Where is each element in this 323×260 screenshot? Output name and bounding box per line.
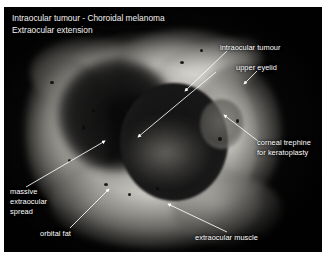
figure-title-line1: Intraocular tumour - Choroidal melanoma: [12, 13, 165, 25]
arrow-corneal-trephine: [224, 115, 258, 141]
figure-title-line2: Extraocular extension: [12, 25, 93, 37]
arrow-extraocular-muscle: [168, 204, 227, 232]
label-massive-spread-line2: extraocular: [10, 197, 47, 207]
label-intraocular-tumour: intraocular tumour: [220, 43, 280, 53]
label-corneal-trephine-line1: corneal trephine: [257, 138, 311, 148]
label-massive-spread-line1: massive: [10, 187, 37, 197]
annotation-layer: Intraocular tumour - Choroidal melanoma …: [4, 7, 322, 252]
arrow-globe-tumour: [138, 72, 216, 137]
arrow-massive-spread: [26, 141, 105, 187]
arrow-orbital-fat: [70, 189, 109, 228]
pathology-figure-frame: Intraocular tumour - Choroidal melanoma …: [4, 7, 322, 252]
label-corneal-trephine-line2: for keratoplasty: [257, 148, 308, 158]
arrow-intraocular-tumour: [185, 51, 227, 91]
label-massive-spread-line3: spread: [10, 207, 33, 217]
label-extraocular-muscle: extraocular muscle: [195, 233, 258, 243]
label-orbital-fat: orbital fat: [40, 229, 71, 239]
label-upper-eyelid: upper eyelid: [236, 63, 277, 73]
